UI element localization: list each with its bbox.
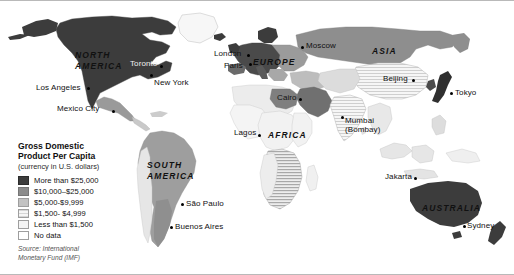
legend-label-5000-9999: $5,000-$9,999 [34,198,84,207]
legend-title: Gross Domestic Product Per Capita [18,141,122,162]
city-dot-mexico-city [112,110,115,113]
legend-item-no-data: No data [18,230,122,241]
city-dot-cairo [299,98,302,101]
legend-swatch-under-1500 [18,220,29,229]
city-dot-london [247,54,250,57]
map-legend: Gross Domestic Product Per Capita (curre… [18,141,122,262]
legend-swatch-1500-4999 [18,209,29,218]
legend-title-line2: Product Per Capita [18,151,122,161]
legend-item-over-25000: More than $25,000 [18,175,122,186]
legend-title-line1: Gross Domestic [18,141,122,151]
city-dot-moscow [301,46,304,49]
legend-subtitle: (currency in U.S. dollars) [18,163,122,172]
legend-item-5000-9999: $5,000-$9,999 [18,197,122,208]
legend-label-1500-4999: $1,500- $4,999 [34,209,86,218]
gdp-per-capita-world-map-figure: NORTH AMERICA SOUTH AMERICA EUROPE AFRIC… [0,0,514,275]
city-dot-sao-paulo [181,203,184,206]
legend-label-no-data: No data [34,231,61,240]
city-dot-mumbai [341,116,344,119]
city-dot-jakarta [414,177,417,180]
legend-label-10000-25000: $10,000–$25,000 [34,187,94,196]
legend-swatch-over-25000 [18,176,29,185]
legend-source-line1: Source: International [18,245,122,253]
city-dot-tokyo [450,92,453,95]
legend-item-1500-4999: $1,500- $4,999 [18,208,122,219]
city-dot-lagos [258,134,261,137]
legend-label-over-25000: More than $25,000 [34,176,99,185]
legend-swatch-no-data [18,231,29,240]
city-dot-paris [249,63,252,66]
legend-item-10000-25000: $10,000–$25,000 [18,186,122,197]
city-dot-sydney [463,225,466,228]
legend-swatch-10000-25000 [18,187,29,196]
city-dot-new-york [150,74,153,77]
city-dot-beijing [412,79,415,82]
city-dot-toronto [160,65,163,68]
legend-swatch-5000-9999 [18,198,29,207]
legend-label-under-1500: Less than $1,500 [34,220,93,229]
legend-item-under-1500: Less than $1,500 [18,219,122,230]
legend-source: Source: International Monetary Fund (IMF… [18,245,122,261]
city-dot-los-angeles [87,87,90,90]
city-dot-buenos-aires [170,226,173,229]
legend-source-line2: Monetary Fund (IMF) [18,254,122,262]
